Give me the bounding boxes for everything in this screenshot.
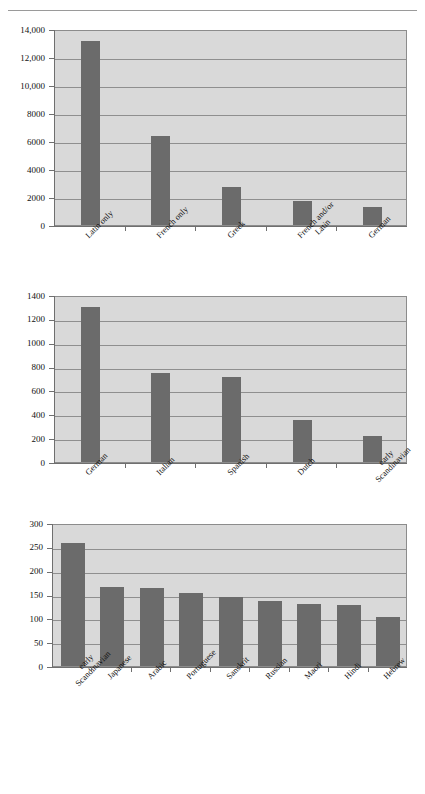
x-tick-mark — [131, 667, 132, 672]
x-tick-mark — [336, 226, 337, 231]
bar-chart-2: 0200400600800100012001400GermanItalianSp… — [0, 292, 425, 507]
y-tick-label: 1400 — [0, 292, 45, 301]
x-tick-mark — [125, 463, 126, 468]
x-tick-mark — [210, 667, 211, 672]
plot-area — [54, 30, 407, 226]
y-tick-mark — [49, 30, 54, 31]
x-tick-mark — [91, 667, 92, 672]
y-axis-line — [52, 524, 53, 667]
y-tick-mark — [49, 86, 54, 87]
y-tick-label: 0 — [0, 222, 45, 231]
y-tick-mark — [49, 170, 54, 171]
y-tick-label: 2000 — [0, 194, 45, 203]
y-tick-label: 50 — [0, 639, 43, 648]
x-tick-mark — [249, 667, 250, 672]
y-axis-line — [54, 30, 55, 226]
bar-chart-3: 050100150200250300early ScandinavianJapa… — [0, 520, 425, 785]
y-tick-mark — [49, 344, 54, 345]
x-tick-mark — [195, 226, 196, 231]
y-tick-mark — [49, 114, 54, 115]
top-horizontal-rule — [8, 10, 417, 11]
bar — [297, 604, 321, 666]
x-tick-mark — [368, 667, 369, 672]
bar — [222, 377, 241, 462]
y-tick-mark — [49, 415, 54, 416]
y-tick-label: 0 — [0, 459, 45, 468]
x-tick-mark — [289, 667, 290, 672]
bar — [219, 597, 243, 666]
y-tick-mark — [49, 296, 54, 297]
gridline — [55, 171, 406, 172]
y-tick-mark — [49, 439, 54, 440]
y-tick-label: 100 — [0, 615, 43, 624]
plot-area — [54, 296, 407, 463]
y-tick-label: 1000 — [0, 339, 45, 348]
y-tick-label: 6000 — [0, 138, 45, 147]
gridline — [55, 369, 406, 370]
y-tick-label: 200 — [0, 435, 45, 444]
y-tick-mark — [47, 596, 52, 597]
gridline — [55, 345, 406, 346]
gridline — [55, 115, 406, 116]
y-tick-label: 10,000 — [0, 82, 45, 91]
gridline — [55, 87, 406, 88]
y-tick-label: 12,000 — [0, 54, 45, 63]
gridline — [55, 321, 406, 322]
bar — [337, 605, 361, 666]
x-tick-mark — [336, 463, 337, 468]
y-axis-line — [54, 296, 55, 463]
y-tick-label: 150 — [0, 591, 43, 600]
bar-chart-1: 0200040006000800010,00012,00014,000Latin… — [0, 20, 425, 270]
figure-page: 0200040006000800010,00012,00014,000Latin… — [0, 0, 425, 794]
y-tick-label: 14,000 — [0, 26, 45, 35]
y-tick-mark — [49, 142, 54, 143]
bar — [61, 543, 85, 666]
y-tick-label: 400 — [0, 411, 45, 420]
y-tick-label: 0 — [0, 663, 43, 672]
x-tick-mark — [266, 226, 267, 231]
x-tick-mark — [195, 463, 196, 468]
y-tick-mark — [47, 619, 52, 620]
bar — [81, 41, 100, 225]
bar — [140, 588, 164, 666]
y-tick-mark — [47, 643, 52, 644]
y-tick-mark — [49, 320, 54, 321]
y-tick-mark — [47, 548, 52, 549]
x-tick-mark — [125, 226, 126, 231]
x-tick-mark — [328, 667, 329, 672]
y-tick-label: 800 — [0, 363, 45, 372]
y-tick-mark — [49, 58, 54, 59]
bar — [81, 307, 100, 462]
bar — [151, 373, 170, 462]
x-tick-mark — [170, 667, 171, 672]
y-tick-label: 600 — [0, 387, 45, 396]
gridline — [55, 59, 406, 60]
y-tick-label: 200 — [0, 567, 43, 576]
y-tick-mark — [49, 368, 54, 369]
y-tick-label: 4000 — [0, 166, 45, 175]
bar — [258, 601, 282, 666]
plot-area — [52, 524, 407, 667]
gridline — [53, 573, 406, 574]
y-tick-mark — [49, 391, 54, 392]
y-tick-label: 250 — [0, 543, 43, 552]
y-tick-label: 300 — [0, 520, 43, 529]
bar — [151, 136, 170, 225]
bar — [179, 593, 203, 666]
x-tick-mark — [266, 463, 267, 468]
y-tick-label: 1200 — [0, 315, 45, 324]
y-tick-label: 8000 — [0, 110, 45, 119]
gridline — [53, 549, 406, 550]
y-tick-mark — [47, 572, 52, 573]
y-tick-mark — [49, 198, 54, 199]
y-tick-mark — [47, 524, 52, 525]
gridline — [55, 143, 406, 144]
